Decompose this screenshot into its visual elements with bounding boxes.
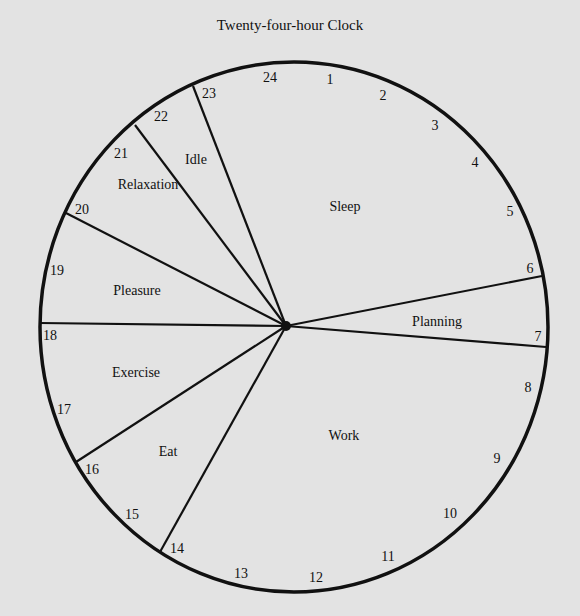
hour-label-14: 14 (170, 541, 184, 556)
hour-label-5: 5 (507, 204, 514, 219)
hour-label-13: 13 (234, 566, 248, 581)
hour-label-21: 21 (114, 146, 128, 161)
hour-label-10: 10 (443, 506, 457, 521)
divider-line-18 (40, 323, 286, 326)
hour-label-9: 9 (494, 451, 501, 466)
segment-label-work: Work (329, 428, 360, 443)
divider-line-20 (66, 213, 286, 326)
segment-labels: SleepPlanningWorkEatExercisePleasureRela… (112, 152, 462, 459)
divider-line-16 (76, 326, 286, 462)
hour-label-19: 19 (50, 263, 64, 278)
segment-label-idle: Idle (185, 152, 207, 167)
hour-label-11: 11 (381, 549, 394, 564)
hour-label-24: 24 (263, 70, 277, 85)
segment-label-sleep: Sleep (329, 199, 360, 214)
hour-label-1: 1 (327, 72, 334, 87)
hour-label-7: 7 (535, 329, 542, 344)
hour-label-22: 22 (154, 109, 168, 124)
hour-label-23: 23 (202, 86, 216, 101)
hour-label-8: 8 (525, 380, 532, 395)
hour-label-4: 4 (472, 155, 479, 170)
hour-label-20: 20 (75, 202, 89, 217)
divider-line-7 (286, 326, 546, 347)
hour-label-15: 15 (125, 507, 139, 522)
hour-label-16: 16 (85, 462, 99, 477)
divider-line-14 (160, 326, 286, 552)
clock-center-hub (281, 321, 291, 331)
segment-label-exercise: Exercise (112, 365, 160, 380)
clock-diagram: Twenty-four-hour Clock 24123456789101112… (0, 0, 580, 616)
segment-label-eat: Eat (159, 444, 178, 459)
hour-label-6: 6 (527, 261, 534, 276)
hour-label-2: 2 (380, 88, 387, 103)
hour-label-3: 3 (432, 118, 439, 133)
clock-face: 241234567891011121314151617181920212223 … (0, 0, 580, 616)
segment-label-relaxation: Relaxation (118, 177, 179, 192)
segment-label-planning: Planning (412, 314, 462, 329)
hour-label-12: 12 (309, 570, 323, 585)
divider-line-23 (193, 86, 286, 326)
hour-label-18: 18 (43, 328, 57, 343)
segment-label-pleasure: Pleasure (113, 283, 160, 298)
hour-label-17: 17 (57, 402, 71, 417)
